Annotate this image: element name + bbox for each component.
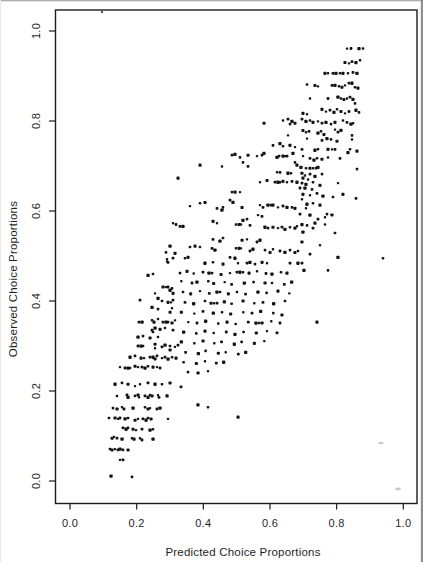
data-point — [131, 476, 134, 479]
data-point — [158, 407, 161, 410]
data-point — [349, 96, 352, 99]
data-point — [281, 180, 284, 183]
data-point — [271, 282, 273, 284]
data-point — [264, 282, 267, 285]
data-point — [137, 418, 139, 420]
data-point — [246, 238, 248, 240]
data-point — [355, 150, 358, 153]
data-point — [291, 152, 294, 155]
data-point — [352, 122, 355, 125]
data-point — [134, 385, 136, 387]
data-point — [277, 206, 279, 208]
data-point — [306, 83, 309, 86]
data-point — [157, 318, 159, 320]
x-tick-label: 0.0 — [62, 517, 78, 529]
data-point — [177, 177, 180, 180]
data-point — [249, 250, 252, 253]
data-point — [172, 299, 175, 302]
data-point — [189, 205, 191, 207]
data-point — [193, 272, 195, 274]
data-point — [238, 271, 241, 274]
data-point — [339, 72, 342, 75]
data-point — [334, 72, 337, 75]
data-point — [305, 167, 308, 170]
data-point — [162, 321, 165, 324]
data-point — [330, 123, 333, 126]
data-point — [346, 151, 349, 154]
data-point — [113, 436, 115, 438]
data-point — [321, 173, 324, 176]
data-point — [180, 280, 182, 282]
data-point — [161, 383, 164, 386]
data-point — [141, 428, 144, 431]
data-point — [320, 130, 323, 133]
data-point — [287, 118, 290, 121]
data-point — [224, 281, 226, 283]
data-point — [199, 164, 202, 167]
data-point — [226, 321, 229, 324]
data-point — [263, 226, 266, 229]
data-point — [151, 394, 154, 397]
data-point — [325, 110, 327, 112]
data-point — [289, 249, 292, 252]
data-point — [242, 161, 245, 164]
data-point — [118, 447, 121, 450]
data-point — [333, 121, 336, 124]
data-point — [354, 86, 357, 89]
data-point — [136, 335, 139, 338]
data-point — [150, 306, 153, 309]
data-point — [338, 85, 341, 88]
data-point — [327, 156, 329, 158]
data-point — [236, 291, 238, 293]
data-point — [309, 119, 312, 122]
data-point — [139, 383, 141, 385]
data-point — [220, 273, 223, 276]
data-point — [222, 361, 225, 364]
data-point — [346, 47, 348, 49]
data-point — [142, 335, 145, 338]
data-point — [219, 291, 222, 294]
data-point — [165, 251, 168, 254]
data-point — [351, 98, 354, 101]
data-point — [283, 251, 286, 254]
data-point — [290, 120, 293, 123]
data-point — [280, 271, 283, 274]
data-point — [204, 300, 207, 303]
data-point — [202, 340, 205, 343]
data-point — [272, 312, 275, 315]
data-point — [317, 120, 319, 122]
data-point — [311, 188, 314, 191]
data-point — [354, 102, 357, 105]
data-point — [154, 358, 157, 361]
data-point — [339, 157, 342, 160]
data-point — [216, 302, 219, 305]
data-point — [220, 341, 223, 344]
data-point — [152, 273, 155, 276]
data-point — [128, 356, 131, 359]
data-point — [111, 448, 114, 451]
data-point — [344, 84, 346, 86]
data-point — [324, 121, 327, 124]
data-point — [264, 249, 267, 252]
x-tick-label: 0.4 — [195, 517, 211, 529]
scatter-figure: 0.00.20.40.60.81.0 0.00.20.40.60.81.0 Pr… — [0, 0, 423, 562]
data-point — [235, 323, 237, 325]
data-point — [167, 301, 170, 304]
data-point — [229, 272, 231, 274]
data-point — [154, 347, 156, 349]
data-point — [335, 140, 338, 143]
data-point — [333, 84, 336, 87]
data-point — [276, 171, 278, 173]
data-point — [210, 302, 213, 305]
data-point — [317, 148, 320, 151]
data-point — [244, 293, 247, 296]
data-point — [262, 301, 265, 304]
data-point — [156, 408, 159, 411]
data-point — [195, 281, 198, 284]
data-point — [279, 250, 282, 253]
data-point — [161, 300, 164, 303]
data-point — [307, 178, 309, 180]
data-point — [171, 307, 173, 309]
data-point — [294, 146, 296, 148]
data-point — [258, 239, 261, 242]
